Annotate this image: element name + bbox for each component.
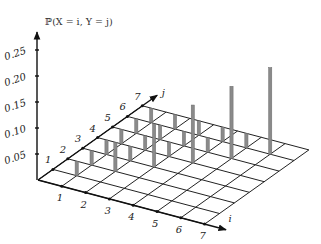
grid-line	[205, 150, 309, 224]
grid-line	[68, 159, 235, 203]
bar	[221, 127, 224, 141]
grid-line	[53, 169, 220, 213]
i-tick-mark	[84, 191, 87, 194]
grid-line	[98, 138, 265, 182]
j-tick-label: 5	[105, 112, 111, 123]
j-tick-label: 4	[89, 123, 96, 134]
bar	[150, 108, 153, 122]
bar	[167, 142, 170, 156]
chart-canvas: 123456712345670.050.100.150.200.25ij ℙ(X…	[0, 0, 321, 244]
chart-3d-bar: 123456712345670.050.100.150.200.25ij ℙ(X…	[0, 0, 321, 244]
j-axis-label: j	[160, 87, 165, 98]
z-axis-title: ℙ(X = i, Y = j)	[45, 16, 113, 27]
bar	[153, 124, 156, 167]
j-tick-mark	[96, 136, 99, 139]
bar	[191, 105, 194, 163]
bar	[230, 86, 233, 158]
bar	[105, 140, 108, 154]
bar	[269, 68, 272, 155]
bar	[197, 121, 200, 135]
j-tick-mark	[51, 168, 54, 171]
j-tick-mark	[111, 126, 114, 129]
bar	[135, 119, 138, 133]
i-tick-mark	[60, 185, 63, 188]
j-tick-mark	[141, 104, 144, 107]
z-tick-label: 0.15	[3, 97, 28, 114]
j-tick-mark	[81, 147, 84, 150]
i-tick-label: 5	[152, 218, 158, 229]
i-axis-label: i	[228, 213, 231, 224]
i-tick-label: 7	[200, 230, 207, 241]
i-tick-mark	[132, 204, 135, 207]
bar	[182, 131, 185, 145]
bar	[159, 125, 162, 139]
z-tick-label: 0.05	[3, 149, 28, 166]
j-tick-mark	[126, 115, 129, 118]
i-tick-mark	[156, 210, 159, 213]
grid-line	[83, 148, 250, 192]
bar	[120, 129, 123, 143]
i-tick-label: 4	[127, 211, 134, 222]
i-tick-mark	[108, 197, 111, 200]
i-tick-label: 6	[176, 224, 183, 235]
i-tick-label: 1	[57, 192, 63, 203]
z-tick-label: 0.25	[3, 45, 28, 62]
bar	[90, 151, 93, 165]
j-tick-label: 6	[119, 101, 126, 112]
bar	[173, 115, 176, 129]
i-tick-label: 3	[104, 205, 110, 216]
bar	[144, 136, 147, 150]
bar	[129, 146, 132, 160]
i-tick-mark	[203, 223, 206, 226]
i-tick-label: 2	[80, 199, 87, 210]
bar	[75, 161, 78, 175]
j-tick-label: 7	[134, 91, 141, 102]
grid-line	[113, 127, 280, 171]
z-tick-label: 0.10	[3, 123, 28, 141]
bar	[245, 133, 248, 147]
j-tick-mark	[66, 157, 69, 160]
j-tick-label: 2	[59, 144, 66, 155]
bar	[206, 138, 209, 152]
j-tick-label: 3	[75, 133, 81, 144]
bar	[114, 142, 117, 171]
z-tick-label: 0.20	[3, 71, 28, 89]
i-tick-mark	[179, 216, 182, 219]
j-tick-label: 1	[45, 154, 51, 165]
